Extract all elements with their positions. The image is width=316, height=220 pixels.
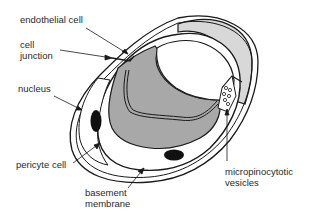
label-pericyte-cell: pericyte cell (16, 160, 66, 170)
pericyte-nucleus (91, 110, 102, 132)
endothelial-nucleus (164, 150, 184, 161)
label-nucleus: nucleus (18, 84, 51, 94)
label-endothelial-cell: endothelial cell (20, 15, 83, 25)
label-basement-membrane-line2: membrane (85, 199, 130, 209)
capillary-cross-section-svg (0, 0, 316, 220)
arrow-cell-junction (105, 55, 112, 60)
leader-endothelial-cell (86, 28, 128, 54)
label-cell-junction-line2: junction (20, 51, 53, 61)
leader-cell-junction (60, 50, 112, 58)
label-basement-membrane-line1: basement (85, 188, 127, 198)
label-micropinocytotic-vesicles-line1: micropinocytotic (225, 167, 293, 177)
label-micropinocytotic-vesicles-line2: vesicles (225, 178, 259, 188)
capillary-diagram: endothelial cell cell junction nucleus p… (0, 0, 316, 220)
label-cell-junction-line1: cell (20, 40, 34, 50)
